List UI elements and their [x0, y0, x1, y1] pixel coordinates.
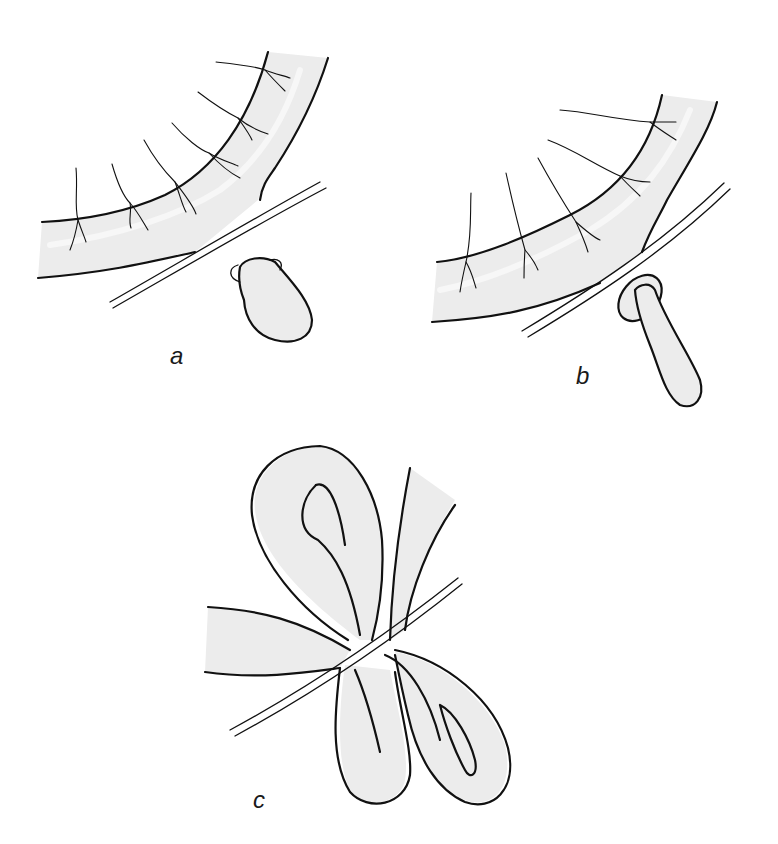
panel-a-drawing: [38, 52, 328, 342]
medical-illustration: [0, 0, 778, 844]
panel-b-drawing: [432, 95, 730, 406]
panel-label-a: a: [170, 342, 183, 370]
panel-label-b: b: [576, 362, 589, 390]
panel-label-c: c: [253, 786, 265, 814]
panel-c-drawing: [205, 446, 510, 804]
